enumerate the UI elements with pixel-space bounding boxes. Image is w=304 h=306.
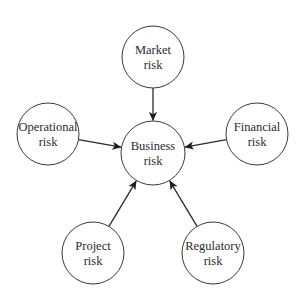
node-financial-risk: Financialrisk (226, 103, 288, 165)
node-business-risk: Businessrisk (121, 121, 185, 185)
node-label-line: Business (131, 139, 176, 153)
node-regulatory-risk: Regulatoryrisk (182, 222, 244, 284)
nodes-group: BusinessriskMarketriskOperationalriskFin… (17, 26, 288, 284)
node-label-line: risk (39, 135, 59, 149)
node-label-line: Project (75, 239, 111, 253)
arrow-financial-to-business (185, 140, 227, 148)
node-project-risk: Projectrisk (62, 222, 124, 284)
node-label-line: risk (204, 254, 224, 268)
arrow-project-to-business (109, 181, 136, 227)
node-label-line: Market (135, 43, 172, 57)
node-market-risk: Marketrisk (122, 26, 184, 88)
node-label-line: Operational (18, 120, 78, 134)
node-label-line: Regulatory (185, 239, 241, 253)
node-label-line: risk (144, 58, 164, 72)
node-label-line: risk (144, 154, 164, 168)
node-label-line: risk (248, 135, 268, 149)
arrow-regulatory-to-business (170, 181, 197, 227)
node-operational-risk: Operationalrisk (17, 103, 79, 165)
arrow-operational-to-business (79, 140, 122, 148)
node-label-line: Financial (234, 120, 281, 134)
risk-diagram: BusinessriskMarketriskOperationalriskFin… (0, 0, 304, 306)
node-label-line: risk (84, 254, 104, 268)
